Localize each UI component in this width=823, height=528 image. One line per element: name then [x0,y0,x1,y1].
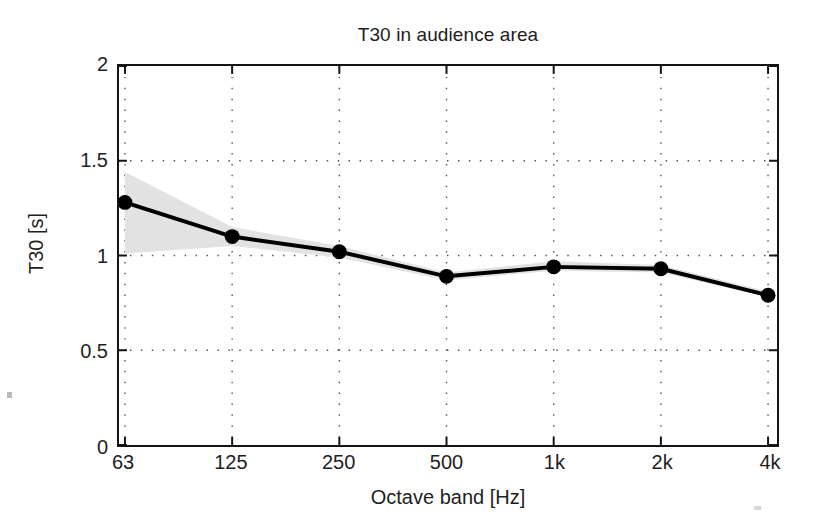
y-tick-label: 1.5 [80,150,108,170]
data-point-marker [225,229,240,244]
y-tick-label: 0.5 [80,341,108,361]
x-tick-label: 125 [214,452,247,472]
x-tick-label: 2k [652,452,673,472]
data-point-marker [761,288,776,303]
y-axis-tick-labels: 00.511.52 [40,64,108,447]
x-tick-label: 4k [759,452,780,472]
data-markers [119,195,776,303]
plot-area [117,64,779,447]
data-point-marker [332,244,347,259]
chart-figure: T30 in audience area 00.511.52 631252505… [0,0,823,528]
scan-artifact-mark [7,392,12,398]
x-tick-label: 1k [544,452,565,472]
data-point-marker [653,261,668,276]
x-tick-label: 250 [322,452,355,472]
x-tick-label: 500 [430,452,463,472]
y-tick-label: 0 [97,437,108,457]
x-axis-tick-labels: 631252505001k2k4k [117,452,779,480]
plot-svg [119,66,777,445]
x-tick-label: 63 [112,452,134,472]
x-axis-title: Octave band [Hz] [117,486,779,509]
y-tick-label: 2 [97,54,108,74]
y-tick-label: 1 [97,246,108,266]
y-axis-title: T30 [s] [25,164,48,324]
data-point-marker [439,269,454,284]
data-point-marker [546,259,561,274]
chart-title: T30 in audience area [117,24,779,46]
gridlines [119,66,777,445]
scan-artifact-mark-secondary [754,506,761,510]
